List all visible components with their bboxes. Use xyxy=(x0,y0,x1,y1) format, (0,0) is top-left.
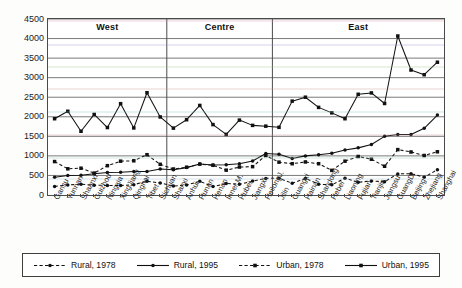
data-point xyxy=(409,68,413,72)
y-axis-tick-label: 1500 xyxy=(6,132,44,141)
data-point xyxy=(224,133,228,137)
x-axis-tick xyxy=(159,194,160,197)
data-point xyxy=(211,164,215,168)
data-point xyxy=(158,163,162,167)
data-point xyxy=(396,148,400,152)
data-point xyxy=(106,164,110,168)
data-point xyxy=(66,167,70,171)
data-point xyxy=(238,118,242,122)
data-point xyxy=(422,127,426,131)
x-axis-tick xyxy=(318,194,319,197)
x-axis-tick xyxy=(146,194,147,197)
data-point xyxy=(119,159,123,163)
x-axis-tick xyxy=(199,194,200,197)
y-axis-tick-label: 0 xyxy=(6,191,44,200)
series-urban-1978 xyxy=(53,148,439,175)
data-point xyxy=(343,159,347,163)
x-axis-tick xyxy=(370,194,371,197)
data-point xyxy=(119,102,123,106)
data-point xyxy=(422,73,426,77)
data-point xyxy=(264,124,268,128)
legend-item-urban-1978[interactable]: Urban, 1978 xyxy=(238,261,323,270)
x-axis-tick xyxy=(410,194,411,197)
data-point xyxy=(158,181,162,185)
legend-swatch xyxy=(238,261,272,270)
y-axis-tick-label: 500 xyxy=(6,171,44,180)
data-point xyxy=(370,143,374,147)
y-axis: 450040003500300025002000150010005000 xyxy=(3,18,44,196)
data-point xyxy=(304,95,308,99)
chart-canvas xyxy=(48,19,444,195)
x-axis-tick xyxy=(212,194,213,197)
data-point xyxy=(145,170,149,174)
x-axis-tick xyxy=(80,194,81,197)
data-point xyxy=(92,113,96,117)
plot-area: WestCentreEast xyxy=(47,18,445,196)
data-point xyxy=(277,126,281,130)
data-point xyxy=(119,171,123,175)
legend-label: Rural, 1995 xyxy=(174,261,218,270)
data-point xyxy=(132,159,136,163)
data-point xyxy=(106,126,110,130)
data-point xyxy=(198,162,202,166)
data-point xyxy=(185,165,189,169)
x-axis-tick xyxy=(265,194,266,197)
legend-swatch xyxy=(136,261,170,270)
data-point xyxy=(304,160,308,164)
legend-label: Urban, 1978 xyxy=(276,261,323,270)
data-point xyxy=(356,146,360,150)
data-point xyxy=(66,174,70,178)
data-point xyxy=(436,60,440,64)
data-point xyxy=(264,154,268,158)
data-point xyxy=(238,165,242,169)
data-point xyxy=(224,163,228,167)
x-axis-tick xyxy=(252,194,253,197)
data-point xyxy=(185,118,189,122)
legend-swatch xyxy=(33,261,67,270)
y-axis-tick-label: 4500 xyxy=(6,15,44,24)
data-point xyxy=(290,182,294,186)
region-label-centre: Centre xyxy=(180,22,260,32)
legend-label: Rural, 1978 xyxy=(71,261,115,270)
legend-item-rural-1995[interactable]: Rural, 1995 xyxy=(136,261,218,270)
data-point xyxy=(330,151,334,155)
data-point xyxy=(317,162,321,166)
data-point xyxy=(251,165,255,169)
data-point xyxy=(317,153,321,157)
data-point xyxy=(422,154,426,158)
x-axis-tick xyxy=(291,194,292,197)
x-axis-tick xyxy=(397,194,398,197)
data-point xyxy=(383,102,387,106)
data-point xyxy=(53,117,57,121)
data-point xyxy=(172,167,176,171)
x-axis-tick xyxy=(172,194,173,197)
x-axis-tick xyxy=(423,194,424,197)
chart-root: 450040003500300025002000150010005000 Wes… xyxy=(0,0,462,288)
legend-item-urban-1995[interactable]: Urban, 1995 xyxy=(344,261,429,270)
x-axis-tick xyxy=(384,194,385,197)
y-axis-tick-label: 3500 xyxy=(6,54,44,63)
legend-label: Urban, 1995 xyxy=(382,261,429,270)
data-point xyxy=(79,130,83,134)
x-axis-tick xyxy=(54,194,55,197)
x-axis-tick xyxy=(304,194,305,197)
series-urban-1995 xyxy=(53,34,439,136)
data-point xyxy=(436,150,440,154)
data-point xyxy=(224,168,228,172)
x-axis-tick xyxy=(357,194,358,197)
data-point xyxy=(343,148,347,152)
x-axis-labels: GansuYunnanShaanxiGuizhouNingxiaXingJian… xyxy=(47,197,445,247)
chart-legend: Rural, 1978Rural, 1995Urban, 1978Urban, … xyxy=(22,253,440,277)
legend-item-rural-1978[interactable]: Rural, 1978 xyxy=(33,261,115,270)
data-point xyxy=(158,167,162,171)
data-point xyxy=(145,91,149,95)
data-point xyxy=(132,126,136,130)
data-point xyxy=(277,160,281,164)
y-axis-tick-label: 4000 xyxy=(6,34,44,43)
data-point xyxy=(158,115,162,119)
region-label-east: East xyxy=(318,22,398,32)
data-point xyxy=(304,154,308,158)
data-point xyxy=(290,162,294,166)
data-point xyxy=(172,126,176,129)
data-point xyxy=(436,113,440,117)
